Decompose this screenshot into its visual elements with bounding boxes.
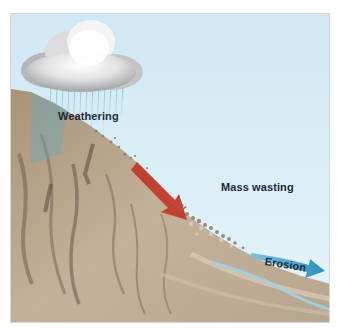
mountain-scene [11,14,330,323]
rain-cloud [21,20,143,92]
mass-wasting-label: Mass wasting [221,181,294,193]
wet-slope [31,92,66,164]
diagram-frame: Weathering Mass wasting Gravity Erosion [10,13,330,323]
weathering-label: Weathering [58,110,119,122]
